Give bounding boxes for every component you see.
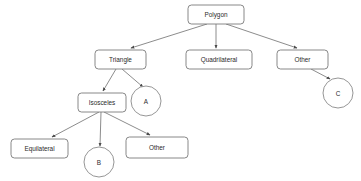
node-label-triangle: Triangle <box>109 56 132 64</box>
polygon-classification-diagram: PolygonTriangleQuadrilateralOtherIsoscel… <box>0 0 361 181</box>
node-label-node-a: A <box>144 98 149 105</box>
edge-triangle-to-node-a <box>122 69 143 87</box>
edge-isosceles-to-node-b <box>100 112 101 146</box>
edge-polygon-to-triangle <box>131 24 207 48</box>
node-label-other-top: Other <box>295 56 312 63</box>
node-equilateral[interactable]: Equilateral <box>11 139 68 158</box>
node-label-node-b: B <box>97 159 101 166</box>
edge-triangle-to-isosceles <box>103 69 116 91</box>
node-label-quadrilateral: Quadrilateral <box>201 56 238 64</box>
node-other-bottom[interactable]: Other <box>126 137 188 158</box>
edge-other-top-to-node-c <box>311 69 330 79</box>
node-node-c[interactable]: C <box>323 78 353 108</box>
node-label-equilateral: Equilateral <box>24 145 54 153</box>
diagram-canvas: PolygonTriangleQuadrilateralOtherIsoscel… <box>0 0 361 181</box>
edge-polygon-to-other-top <box>226 24 297 48</box>
node-other-top[interactable]: Other <box>277 50 328 69</box>
node-triangle[interactable]: Triangle <box>95 50 146 69</box>
node-label-polygon: Polygon <box>204 11 228 19</box>
node-node-a[interactable]: A <box>131 86 161 116</box>
node-polygon[interactable]: Polygon <box>188 5 244 24</box>
node-isosceles[interactable]: Isosceles <box>78 93 126 112</box>
node-label-other-bottom: Other <box>149 144 166 151</box>
nodes-group: PolygonTriangleQuadrilateralOtherIsoscel… <box>11 5 353 177</box>
edges-group <box>52 24 330 146</box>
node-label-isosceles: Isosceles <box>89 99 116 106</box>
edge-isosceles-to-equilateral <box>52 112 99 137</box>
node-node-b[interactable]: B <box>84 147 114 177</box>
node-label-node-c: C <box>336 90 341 97</box>
node-quadrilateral[interactable]: Quadrilateral <box>186 50 252 69</box>
